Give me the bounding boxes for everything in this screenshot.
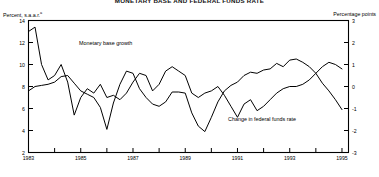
figure-container: MONETARY BASE AND FEDERAL FUNDS RATE Per…	[0, 0, 379, 177]
y-tick-label: 6	[10, 106, 25, 112]
y-tick-label: 10	[10, 62, 25, 68]
y-tick-label: 14	[10, 18, 25, 24]
y2-tick-label: 2	[352, 40, 367, 46]
series-label-fed-funds: Change in federal funds rate	[228, 116, 296, 122]
series-label-monetary-base: Monetary base growth	[79, 40, 132, 46]
x-tick-label: 1989	[176, 155, 194, 161]
x-tick-label: 1995	[333, 155, 351, 161]
x-tick-label: 1987	[124, 155, 142, 161]
y-tick-label: 12	[10, 40, 25, 46]
x-tick-label: 1983	[20, 155, 38, 161]
y2-tick-label: -2	[352, 128, 367, 134]
y2-tick-label: 1	[352, 62, 367, 68]
x-tick-label: 1985	[72, 155, 90, 161]
y2-tick-label: 0	[352, 84, 367, 90]
y2-tick-label: 3	[352, 18, 367, 24]
y2-tick-label: -1	[352, 106, 367, 112]
x-tick-label: 1991	[228, 155, 246, 161]
chart-plot-area	[0, 0, 379, 177]
y2-tick-label: -3	[352, 150, 367, 156]
series-line-fed-funds	[29, 27, 342, 117]
y-tick-label: 8	[10, 84, 25, 90]
x-tick-label: 1993	[281, 155, 299, 161]
y-tick-label: 4	[10, 128, 25, 134]
